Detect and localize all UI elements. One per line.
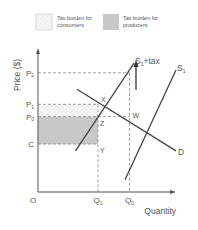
- tax-incidence-chart: Tax burden for consumers Tax burden for …: [0, 0, 198, 230]
- point-label-z: Z: [100, 120, 105, 127]
- x-axis-arrow: [170, 190, 176, 194]
- legend-label-producers-1: Tax burden for: [123, 15, 158, 21]
- chart-stage: Tax burden for consumers Tax burden for …: [0, 0, 198, 230]
- legend-label-producers-2: producers: [123, 22, 148, 28]
- origin-label: O: [30, 196, 36, 205]
- legend-label-consumers-2: consumers: [57, 22, 84, 28]
- tick-label-P1: P1: [26, 100, 34, 110]
- point-label-w: W: [133, 112, 140, 119]
- point-label-y: Y: [100, 147, 105, 154]
- curve-s1: [125, 70, 176, 180]
- tick-label-C: C: [28, 140, 34, 149]
- tick-label-P0: P0: [26, 113, 34, 123]
- plot-area: P2P1P0CQ1Q0DS1S1+taxXWZY: [26, 56, 186, 205]
- tick-label-Q1: Q1: [94, 196, 103, 206]
- legend-label-consumers-1: Tax burden for: [57, 15, 92, 21]
- curve-label-s1: S1: [177, 63, 186, 74]
- legend: Tax burden for consumers Tax burden for …: [36, 14, 158, 30]
- tick-label-P2: P2: [26, 69, 34, 79]
- shaded-consumer-burden: [38, 104, 98, 116]
- x-axis-label: Quantity: [144, 206, 176, 216]
- y-axis-arrow: [36, 48, 40, 54]
- tick-label-Q0: Q0: [125, 196, 134, 206]
- point-label-x: X: [101, 96, 106, 103]
- legend-swatch-consumers: [36, 14, 52, 30]
- y-axis-label: Price ($): [12, 59, 22, 91]
- curve-label-d: D: [178, 147, 184, 157]
- legend-swatch-producers: [103, 14, 119, 30]
- curve-label-s1-plus-tax: S1+tax: [135, 56, 161, 67]
